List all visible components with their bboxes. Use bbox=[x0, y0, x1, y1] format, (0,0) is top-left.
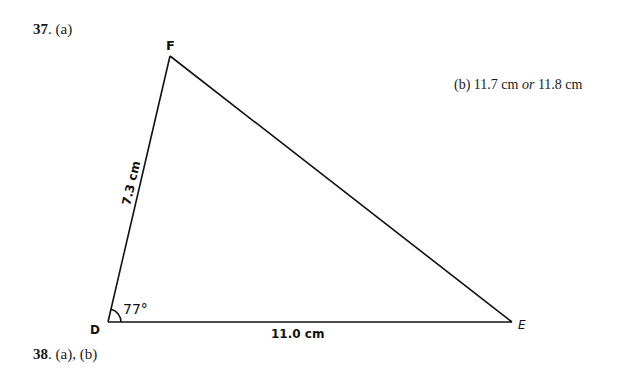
question-38-heading: 38. (a), (b) bbox=[33, 346, 97, 363]
angle-label-d: 77° bbox=[123, 301, 148, 317]
question-number: 38 bbox=[33, 346, 48, 362]
angle-arc-d bbox=[111, 309, 121, 322]
vertex-label-d: D bbox=[90, 323, 100, 337]
side-fe bbox=[170, 56, 512, 322]
vertex-label-e: E bbox=[518, 318, 526, 332]
vertex-label-f: F bbox=[166, 38, 175, 53]
side-df bbox=[108, 56, 170, 322]
parts-label: . (a), (b) bbox=[48, 346, 97, 362]
triangle-diagram: F D E 7.3 cm 11.0 cm 77° bbox=[0, 0, 621, 373]
side-label-de: 11.0 cm bbox=[271, 327, 324, 341]
